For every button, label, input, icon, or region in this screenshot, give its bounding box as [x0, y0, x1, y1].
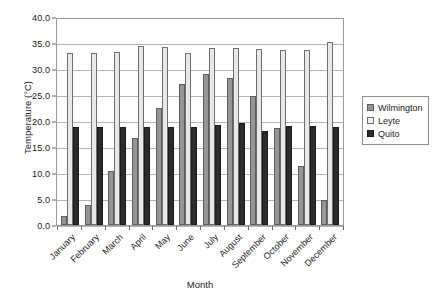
bar — [191, 127, 197, 225]
x-tick-mark — [295, 226, 296, 230]
y-tick-mark — [52, 96, 56, 97]
legend-swatch-icon — [367, 130, 374, 137]
y-tick-label: 5.0 — [14, 196, 50, 205]
x-tick-mark — [105, 226, 106, 230]
bar-group — [58, 19, 82, 225]
bar-group — [271, 19, 295, 225]
x-tick-mark — [343, 226, 344, 230]
x-tick-label: March — [100, 232, 125, 257]
bar-group — [153, 19, 177, 225]
bar-group — [247, 19, 271, 225]
plot-area — [56, 18, 344, 226]
bar — [262, 131, 268, 225]
y-tick-mark — [52, 70, 56, 71]
x-tick-label: June — [175, 232, 196, 253]
bar — [239, 123, 245, 225]
y-tick-label: 35.0 — [14, 40, 50, 49]
bar — [144, 127, 150, 225]
x-tick-label: July — [202, 232, 220, 250]
legend-swatch-icon — [367, 104, 374, 111]
bar — [215, 125, 221, 225]
y-tick-label: 15.0 — [14, 144, 50, 153]
x-tick-label: May — [153, 232, 172, 251]
bar-group — [318, 19, 342, 225]
bar — [168, 127, 174, 225]
y-tick-label: 10.0 — [14, 170, 50, 179]
bar-group — [224, 19, 248, 225]
x-tick-label: April — [129, 232, 149, 252]
y-tick-mark — [52, 200, 56, 201]
bar-group — [105, 19, 129, 225]
x-tick-mark — [224, 226, 225, 230]
y-tick-mark — [52, 18, 56, 19]
bar-group — [129, 19, 153, 225]
y-tick-label: 25.0 — [14, 92, 50, 101]
y-tick-label: 0.0 — [14, 222, 50, 231]
bar-group — [82, 19, 106, 225]
y-tick-label: 40.0 — [14, 14, 50, 23]
x-axis-title: Month — [56, 279, 344, 290]
bar — [286, 126, 292, 225]
y-tick-mark — [52, 148, 56, 149]
bar-group — [200, 19, 224, 225]
x-tick-mark — [176, 226, 177, 230]
x-tick-mark — [57, 226, 58, 230]
y-axis-tick-labels: 40.035.030.025.020.015.010.05.00.0 — [14, 0, 50, 299]
x-tick-mark — [272, 226, 273, 230]
bar — [73, 127, 79, 225]
y-tick-mark — [52, 44, 56, 45]
x-tick-mark — [81, 226, 82, 230]
y-tick-mark — [52, 226, 56, 227]
legend-swatch-icon — [367, 117, 374, 124]
x-tick-mark — [152, 226, 153, 230]
bar — [120, 127, 126, 225]
y-tick-label: 30.0 — [14, 66, 50, 75]
legend-label: Quito — [378, 129, 400, 139]
x-tick-mark — [200, 226, 201, 230]
y-tick-mark — [52, 174, 56, 175]
bar-group — [176, 19, 200, 225]
bar-groups — [57, 19, 343, 225]
y-tick-mark — [52, 122, 56, 123]
bar-group — [295, 19, 319, 225]
temperature-bar-chart: Temperature (°C) 40.035.030.025.020.015.… — [0, 0, 441, 299]
y-tick-label: 20.0 — [14, 118, 50, 127]
legend-label: Leyte — [378, 116, 400, 126]
legend-label: Wilmington — [378, 103, 423, 113]
legend-item-wilmington: Wilmington — [367, 101, 423, 114]
bar — [310, 126, 316, 225]
x-tick-mark — [129, 226, 130, 230]
bar — [333, 127, 339, 225]
chart-legend: WilmingtonLeyteQuito — [362, 96, 429, 145]
legend-item-leyte: Leyte — [367, 114, 423, 127]
x-tick-mark — [319, 226, 320, 230]
legend-item-quito: Quito — [367, 127, 423, 140]
bar — [97, 127, 103, 225]
x-tick-mark — [248, 226, 249, 230]
